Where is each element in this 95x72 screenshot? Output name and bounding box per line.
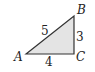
triangle-diagram: A B C 5 3 4	[0, 0, 95, 72]
vertex-b-label: B	[76, 3, 86, 17]
side-bc-label: 3	[76, 30, 84, 44]
triangle-abc	[26, 16, 74, 54]
side-ac-label: 4	[45, 55, 53, 69]
side-ab-label: 5	[41, 24, 49, 38]
vertex-a-label: A	[13, 50, 23, 64]
vertex-c-label: C	[76, 50, 85, 64]
